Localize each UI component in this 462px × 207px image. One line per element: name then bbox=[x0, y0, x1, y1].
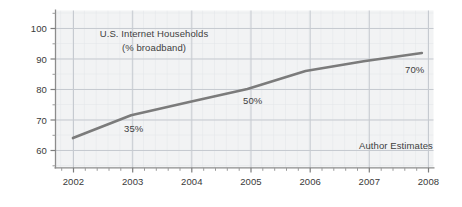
x-tick-label-2003: 2003 bbox=[113, 176, 153, 187]
annotation-70-percent: 70% bbox=[405, 64, 424, 75]
chart-title-line2: (% broadband) bbox=[89, 42, 219, 53]
y-tick-label-100: 100 bbox=[21, 23, 47, 34]
y-tick-label-80: 80 bbox=[21, 84, 47, 95]
annotation-50-percent: 50% bbox=[243, 95, 262, 106]
y-tick-label-60: 60 bbox=[21, 145, 47, 156]
chart-title-line1: U.S. Internet Households bbox=[89, 28, 219, 39]
x-tick-label-2008: 2008 bbox=[409, 176, 449, 187]
x-tick-label-2004: 2004 bbox=[172, 176, 212, 187]
x-tick-label-2005: 2005 bbox=[231, 176, 271, 187]
x-tick-label-2002: 2002 bbox=[54, 176, 94, 187]
x-tick-label-2006: 2006 bbox=[290, 176, 330, 187]
y-axis-ticks bbox=[51, 29, 56, 151]
source-note: Author Estimates bbox=[359, 140, 433, 151]
y-tick-label-70: 70 bbox=[21, 115, 47, 126]
x-tick-label-2007: 2007 bbox=[349, 176, 389, 187]
annotation-35-percent: 35% bbox=[124, 123, 143, 134]
y-tick-label-90: 90 bbox=[21, 54, 47, 65]
broadband-penetration-chart: 100 90 80 70 60 2002 2003 2004 2005 2006… bbox=[0, 0, 462, 207]
x-axis-ticks bbox=[74, 168, 429, 173]
